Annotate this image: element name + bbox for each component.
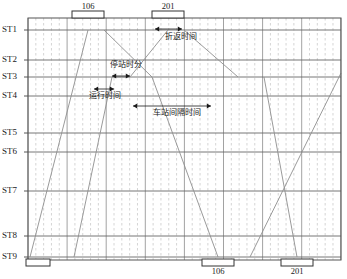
annotation-label-turnback-time: 折返时间 [165,31,197,41]
station-label-st2: ST2 [2,54,17,64]
annotation-label-station-headway: 车站间隔时间 [153,107,201,117]
station-label-st8: ST8 [2,230,18,240]
train-number-bottom: 201 [291,266,304,276]
train-marker-box-top[interactable] [152,11,184,18]
train-number-top: 106 [82,1,95,11]
train-number-top: 201 [162,1,175,11]
station-label-st4: ST4 [2,90,18,100]
station-label-st3: ST3 [2,71,18,81]
station-label-st5: ST5 [2,127,18,137]
annotation-label-running-time: 运行时间 [89,90,121,100]
station-label-st7: ST7 [2,185,18,195]
train-graph-svg: ST1ST2ST3ST4ST5ST6ST7ST8ST9 106201106201… [0,0,347,279]
station-label-st1: ST1 [2,24,17,34]
train-marker-box-bottom[interactable] [281,259,313,266]
train-marker-box-bottom[interactable] [202,259,234,266]
diagram-root: ST1ST2ST3ST4ST5ST6ST7ST8ST9 106201106201… [0,0,347,279]
train-marker-box-top[interactable] [72,11,104,18]
station-axis-labels: ST1ST2ST3ST4ST5ST6ST7ST8ST9 [2,24,18,261]
train-marker-box-bottom[interactable] [26,259,50,266]
station-label-st6: ST6 [2,146,18,156]
station-label-st9: ST9 [2,251,18,261]
annotation-label-dwell-time: 停站时分 [110,59,142,69]
train-number-bottom: 106 [212,266,225,276]
